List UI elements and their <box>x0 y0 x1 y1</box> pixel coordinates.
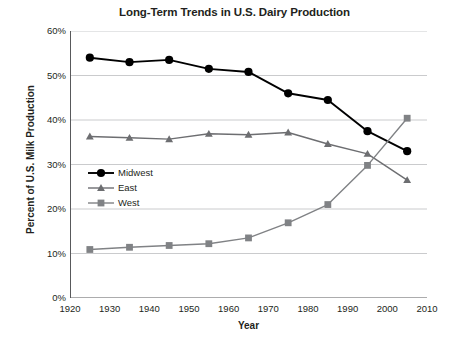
y-tick-label: 40% <box>26 115 66 125</box>
data-point-west-1995 <box>364 162 371 169</box>
x-tick-label: 1930 <box>90 303 130 314</box>
chart-legend: MidwestEastWest <box>88 165 153 210</box>
x-axis-tick-labels: 1920193019401950196019701980199020002010 <box>70 303 427 319</box>
data-point-west-1965 <box>245 235 252 242</box>
x-tick-label: 1970 <box>248 303 288 314</box>
legend-item-west[interactable]: West <box>88 195 153 210</box>
data-point-west-1925 <box>86 246 93 253</box>
legend-item-east[interactable]: East <box>88 180 153 195</box>
legend-label: East <box>118 182 137 194</box>
legend-marker-circle-icon <box>88 167 114 179</box>
x-tick-label: 1940 <box>129 303 169 314</box>
legend-marker-square-icon <box>88 197 114 209</box>
y-tick-label: 60% <box>26 26 66 36</box>
data-point-west-1935 <box>126 244 133 251</box>
x-tick-label: 1920 <box>50 303 90 314</box>
x-tick-label: 2000 <box>367 303 407 314</box>
legend-marker-triangle-icon <box>88 182 114 194</box>
data-point-west-1955 <box>205 240 212 247</box>
data-point-west-1975 <box>285 219 292 226</box>
data-point-midwest-1965 <box>244 68 252 76</box>
y-axis-tick-labels: 0%10%20%30%40%50%60% <box>22 31 66 298</box>
data-point-east-2005 <box>403 176 411 183</box>
data-point-midwest-2005 <box>403 147 411 155</box>
chart-container: Long-Term Trends in U.S. Dairy Productio… <box>0 0 469 359</box>
data-point-midwest-1925 <box>86 54 94 62</box>
data-point-midwest-1955 <box>205 65 213 73</box>
x-tick-label: 1980 <box>288 303 328 314</box>
y-tick-label: 20% <box>26 204 66 214</box>
x-tick-label: 1960 <box>209 303 249 314</box>
data-point-midwest-1985 <box>324 96 332 104</box>
data-point-midwest-1995 <box>363 127 371 135</box>
data-point-west-2005 <box>404 115 411 122</box>
legend-item-midwest[interactable]: Midwest <box>88 165 153 180</box>
x-tick-label: 1950 <box>169 303 209 314</box>
y-tick-label: 0% <box>26 293 66 303</box>
data-point-midwest-1975 <box>284 89 292 97</box>
x-tick-label: 2010 <box>407 303 447 314</box>
y-tick-label: 50% <box>26 71 66 81</box>
x-axis-title: Year <box>70 320 427 331</box>
data-point-west-1945 <box>166 242 173 249</box>
legend-label: Midwest <box>118 167 153 179</box>
chart-title: Long-Term Trends in U.S. Dairy Productio… <box>0 6 469 18</box>
y-tick-label: 30% <box>26 160 66 170</box>
legend-label: West <box>118 197 139 209</box>
x-tick-label: 1990 <box>328 303 368 314</box>
data-point-midwest-1945 <box>165 56 173 64</box>
y-tick-label: 10% <box>26 249 66 259</box>
data-point-midwest-1935 <box>125 58 133 66</box>
data-point-west-1985 <box>324 201 331 208</box>
